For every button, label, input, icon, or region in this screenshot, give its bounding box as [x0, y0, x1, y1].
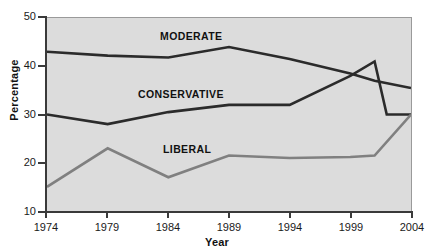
x-tick-mark: [167, 211, 169, 218]
series-line-moderate: [47, 47, 411, 88]
x-tick-mark: [228, 211, 230, 218]
y-tick-mark: [38, 162, 46, 164]
series-label-moderate: MODERATE: [160, 30, 223, 42]
x-tick-mark: [106, 211, 108, 218]
x-tick-label: 1989: [206, 221, 252, 233]
x-tick-label: 1974: [23, 221, 69, 233]
y-tick-mark: [38, 65, 46, 67]
series-label-conservative: CONSERVATIVE: [138, 88, 224, 100]
x-tick-mark: [350, 211, 352, 218]
y-tick-label: 10: [2, 206, 36, 217]
line-chart: 1020304050 1974197919841989199419992004 …: [0, 0, 434, 251]
x-tick-label: 1984: [145, 221, 191, 233]
x-axis-title: Year: [0, 236, 434, 248]
series-line-liberal: [47, 115, 411, 187]
y-axis-title: Percentage: [8, 50, 20, 130]
x-tick-label: 1979: [84, 221, 130, 233]
x-tick-mark: [289, 211, 291, 218]
x-tick-mark: [411, 211, 413, 218]
plot-svg: [47, 18, 411, 211]
y-tick-label: 50: [2, 11, 36, 22]
x-tick-label: 1999: [328, 221, 374, 233]
y-tick-mark: [38, 114, 46, 116]
series-line-conservative: [47, 61, 411, 124]
series-label-liberal: LIBERAL: [163, 143, 211, 155]
x-tick-label: 1994: [267, 221, 313, 233]
x-tick-mark: [45, 211, 47, 218]
plot-area: [46, 17, 412, 212]
y-tick-label: 20: [2, 157, 36, 168]
y-tick-mark: [38, 16, 46, 18]
x-tick-label: 2004: [389, 221, 434, 233]
